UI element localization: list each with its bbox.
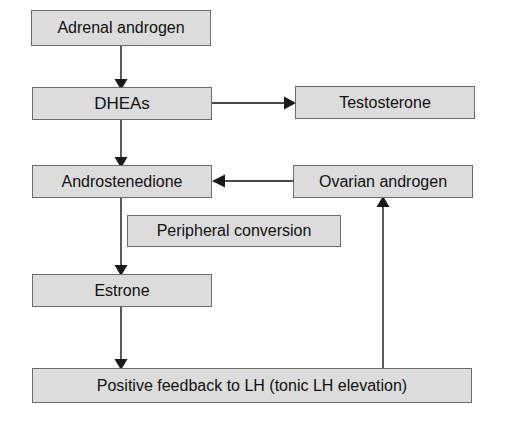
node-adrenal-androgen-label: Adrenal androgen (57, 20, 184, 36)
edge-androstenedione-to-estrone (115, 198, 128, 276)
edge-ovarian-to-androstenedione (212, 175, 293, 188)
edge-feedback-to-ovarian (377, 196, 390, 368)
node-ovarian-androgen[interactable]: Ovarian androgen (293, 165, 473, 198)
node-dheas[interactable]: DHEAs (32, 87, 212, 120)
node-estrone-label: Estrone (94, 283, 149, 299)
edge-estrone-to-positive-feedback (115, 307, 128, 370)
edge-dheas-to-testosterone (212, 97, 296, 110)
node-adrenal-androgen[interactable]: Adrenal androgen (31, 10, 211, 46)
node-peripheral-conversion[interactable]: Peripheral conversion (127, 215, 341, 247)
node-positive-feedback[interactable]: Positive feedback to LH (tonic LH elevat… (32, 368, 472, 403)
node-androstenedione[interactable]: Androstenedione (32, 165, 212, 198)
node-estrone[interactable]: Estrone (32, 274, 212, 307)
node-ovarian-androgen-label: Ovarian androgen (319, 174, 447, 190)
node-positive-feedback-label: Positive feedback to LH (tonic LH elevat… (97, 378, 407, 394)
flowchart-diagram: Adrenal androgen DHEAs Testosterone Andr… (0, 0, 505, 428)
node-dheas-label: DHEAs (94, 95, 150, 112)
node-testosterone-label: Testosterone (339, 95, 431, 111)
node-testosterone[interactable]: Testosterone (295, 86, 475, 119)
node-androstenedione-label: Androstenedione (62, 174, 183, 190)
edge-adrenal-to-dheas (115, 46, 128, 90)
edge-dheas-to-androstenedione (115, 120, 128, 168)
node-peripheral-conversion-label: Peripheral conversion (157, 223, 312, 239)
connector-layer (0, 0, 505, 428)
